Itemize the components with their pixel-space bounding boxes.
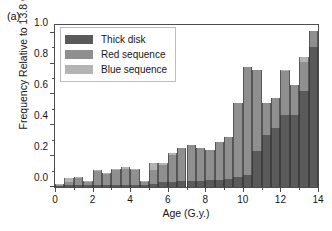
histogram-bar <box>158 163 167 187</box>
histogram-bar <box>205 150 214 187</box>
legend-item: Blue sequence <box>65 62 167 77</box>
y-tick-label: 0.6 <box>34 78 48 89</box>
legend-item: Thick disk <box>65 32 167 47</box>
histogram-bar <box>121 167 130 187</box>
y-tick-label: 0.8 <box>34 48 48 59</box>
bar-segment <box>64 182 73 185</box>
bar-segment <box>149 170 158 184</box>
bar-segment <box>158 182 167 187</box>
y-tick-label: 1.0 <box>34 17 48 28</box>
bar-segment <box>158 163 167 166</box>
bar-segment <box>121 185 130 187</box>
y-tick-label: 0.0 <box>34 171 48 182</box>
y-axis-title: Frequency Relative to 13.8 G.y. <box>17 0 29 141</box>
bar-segment <box>93 170 102 171</box>
bar-segment <box>121 167 130 169</box>
bar-segment <box>262 103 271 135</box>
histogram-bar <box>215 142 224 187</box>
bar-segment <box>55 184 64 185</box>
histogram-bar <box>93 170 102 187</box>
bar-segment <box>262 135 271 187</box>
legend: Thick disk Red sequence Blue sequence <box>60 27 176 82</box>
bar-segment <box>177 148 186 181</box>
histogram-bar <box>243 67 252 187</box>
histogram-bar <box>177 148 186 187</box>
bar-segment <box>111 169 120 170</box>
x-tick <box>55 187 56 192</box>
y-tick-minor <box>52 78 55 79</box>
x-tick <box>318 187 319 192</box>
bar-segment <box>196 148 205 180</box>
y-tick-minor <box>52 140 55 141</box>
bar-segment <box>158 165 167 182</box>
x-tick-minor <box>149 187 150 190</box>
x-tick-minor <box>299 187 300 190</box>
x-tick-label: 4 <box>127 194 133 205</box>
bar-segment <box>280 71 289 114</box>
legend-swatch-red-sequence <box>65 50 93 59</box>
histogram-bar <box>83 181 92 187</box>
y-tick-minor <box>52 47 55 48</box>
histogram-bar <box>187 145 196 187</box>
y-tick-minor <box>52 109 55 110</box>
bar-segment <box>224 137 233 179</box>
bar-segment <box>187 181 196 187</box>
bar-segment <box>74 185 83 187</box>
histogram-bar <box>280 70 289 187</box>
bar-segment <box>55 185 64 187</box>
plot-area: 0.00.20.40.60.81.0 02468101214 Thick dis… <box>54 24 319 188</box>
histogram-bar <box>140 181 149 187</box>
x-tick <box>205 187 206 192</box>
bar-segment <box>280 70 289 72</box>
y-tick <box>50 124 55 125</box>
histogram-bar <box>130 169 139 188</box>
legend-item: Red sequence <box>65 47 167 62</box>
x-tick <box>243 187 244 192</box>
x-tick-minor <box>111 187 112 190</box>
histogram-bar <box>309 31 318 187</box>
bar-segment <box>74 178 83 186</box>
x-tick-label: 10 <box>237 194 248 205</box>
bar-segment <box>149 184 158 187</box>
legend-label-thick-disk: Thick disk <box>101 34 145 45</box>
legend-label-red-sequence: Red sequence <box>101 49 166 60</box>
histogram-bar <box>64 178 73 187</box>
bar-segment <box>111 170 120 185</box>
bar-segment <box>252 70 261 151</box>
bar-segment <box>168 182 177 187</box>
legend-swatch-thick-disk <box>65 35 93 44</box>
figure-panel: (a) Frequency Relative to 13.8 G.y. Age … <box>0 0 332 231</box>
bar-segment <box>243 175 252 187</box>
bar-segment <box>290 85 299 114</box>
y-tick-minor <box>52 171 55 172</box>
bar-segment <box>130 169 139 170</box>
histogram-bar <box>74 177 83 187</box>
bar-segment <box>64 185 73 187</box>
bar-segment <box>224 179 233 187</box>
bar-segment <box>168 153 177 155</box>
x-tick-label: 14 <box>312 194 323 205</box>
x-tick-minor <box>187 187 188 190</box>
bar-segment <box>205 180 214 187</box>
y-tick <box>50 155 55 156</box>
x-tick-label: 12 <box>275 194 286 205</box>
bar-segment <box>140 182 149 185</box>
x-tick <box>130 187 131 192</box>
bar-segment <box>111 185 120 187</box>
histogram-bar <box>252 70 261 187</box>
bar-segment <box>130 185 139 187</box>
bar-segment <box>130 170 139 185</box>
bar-segment <box>233 177 242 187</box>
x-tick <box>93 187 94 192</box>
bar-segment <box>233 103 242 177</box>
histogram-bar <box>149 163 158 187</box>
bar-segment <box>280 115 289 188</box>
x-axis-title: Age (G.y.) <box>54 207 318 219</box>
legend-swatch-blue-sequence <box>65 65 93 74</box>
bar-segment <box>102 185 111 187</box>
bar-segment <box>187 145 196 181</box>
y-tick <box>50 93 55 94</box>
x-tick-label: 2 <box>90 194 96 205</box>
bar-segment <box>205 150 214 180</box>
x-tick <box>168 187 169 192</box>
